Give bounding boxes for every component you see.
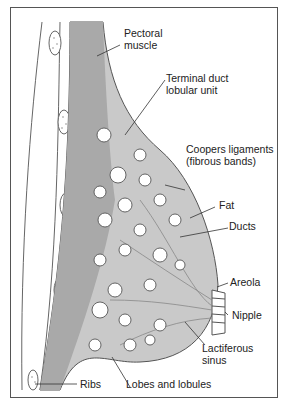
label-ducts: Ducts xyxy=(229,220,256,232)
label-lactiferous-sinus: Lactiferous sinus xyxy=(202,342,253,366)
label-coopers-ligaments: Coopers ligaments (fibrous bands) xyxy=(186,143,274,167)
label-nipple: Nipple xyxy=(232,309,262,321)
label-areola: Areola xyxy=(230,276,260,288)
label-pectoral-muscle: Pectoral muscle xyxy=(124,27,163,51)
nipple-icon xyxy=(212,290,225,335)
rib-wall-outer-line xyxy=(22,22,42,390)
label-terminal-duct: Terminal duct lobular unit xyxy=(166,72,228,96)
label-fat: Fat xyxy=(219,199,234,211)
label-lobes-and-lobules: Lobes and lobules xyxy=(126,378,211,390)
label-ribs: Ribs xyxy=(80,378,101,390)
